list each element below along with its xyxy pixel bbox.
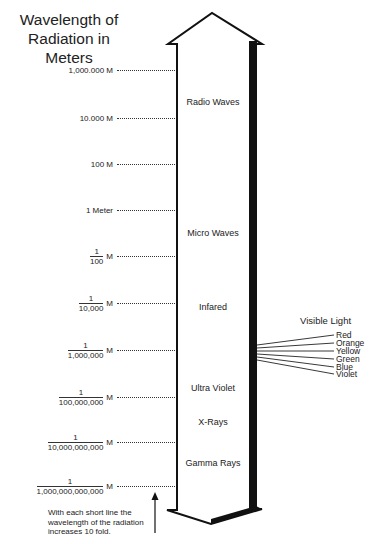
visible-light-lines: [257, 335, 334, 374]
tick-1000000m: 1,000.000 M: [69, 66, 175, 75]
unit: M: [106, 438, 113, 447]
tick-1-100m: 1100 M: [90, 247, 175, 266]
band-infrared: Infared: [180, 302, 246, 312]
tick-dots: [117, 397, 175, 398]
fraction: 110,000,000,000: [48, 433, 104, 452]
tick-1-10000m: 110,000 M: [79, 294, 175, 313]
fraction: 1100: [90, 247, 103, 266]
tick-dots: [117, 70, 175, 71]
band-gamma-rays: Gamma Rays: [180, 458, 246, 468]
note-line-2: wavelength of the radiation: [48, 518, 158, 528]
title-line-1: Wavelength of: [4, 10, 134, 29]
unit: M: [106, 252, 113, 261]
tick-label: 10.000 M: [80, 114, 113, 123]
band-radio-waves: Radio Waves: [180, 97, 246, 107]
band-x-rays: X-Rays: [180, 417, 246, 427]
tick-1-1000000m: 11,000,000 M: [68, 341, 175, 360]
tick-label: 1,000.000 M: [69, 66, 113, 75]
note-line-3: increases 10 fold.: [48, 527, 158, 537]
fraction: 110,000: [79, 294, 103, 313]
tick-1-meter: 1 Meter: [86, 206, 175, 215]
tick-label: 1 Meter: [86, 206, 113, 215]
tick-dots: [117, 118, 175, 119]
arrow-head-top: [168, 13, 262, 44]
arrow-shaft-shadow: [249, 41, 257, 510]
arrow-head-bottom-shadow: [211, 506, 262, 524]
scale-note: With each short line the wavelength of t…: [48, 508, 158, 537]
tick-dots: [117, 164, 175, 165]
unit: M: [106, 346, 113, 355]
unit: M: [106, 482, 113, 491]
tick-100m: 100 M: [91, 160, 175, 169]
tick-dots: [117, 210, 175, 211]
visible-light-title: Visible Light: [300, 315, 351, 326]
tick-1-1000000000000m: 11,000,000,000,000 M: [37, 477, 175, 496]
title-line-2: Radiation in Meters: [4, 29, 134, 67]
tick-dots: [117, 256, 175, 257]
unit: M: [106, 393, 113, 402]
unit: M: [106, 299, 113, 308]
fraction: 1100,000,000: [59, 388, 104, 407]
visible-light-violet: Violet: [336, 370, 357, 378]
band-ultra-violet: Ultra Violet: [180, 383, 246, 393]
tick-dots: [117, 486, 175, 487]
note-line-1: With each short line the: [48, 508, 158, 518]
tick-10000m: 10.000 M: [80, 114, 175, 123]
tick-1-100000000m: 1100,000,000 M: [59, 388, 175, 407]
tick-1-10000000000m: 110,000,000,000 M: [48, 433, 175, 452]
band-micro-waves: Micro Waves: [180, 228, 246, 238]
tick-dots: [117, 350, 175, 351]
fraction: 11,000,000: [68, 341, 104, 360]
fraction: 11,000,000,000,000: [37, 477, 104, 496]
tick-dots: [117, 303, 175, 304]
tick-dots: [117, 442, 175, 443]
tick-label: 100 M: [91, 160, 113, 169]
diagram-title: Wavelength of Radiation in Meters: [4, 10, 134, 67]
